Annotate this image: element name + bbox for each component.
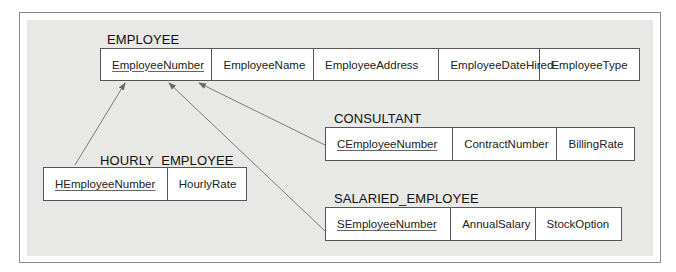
primary-key-attribute: CEmployeeNumber [337, 138, 437, 150]
attribute-label: StockOption [547, 218, 610, 230]
primary-key-attribute: SEmployeeNumber [337, 218, 437, 230]
employee-relation-name: EMPLOYEE [107, 32, 179, 47]
employee-relation: EmployeeNumber EmployeeName EmployeeAddr… [100, 48, 640, 81]
attribute-cell: EmployeeName [212, 49, 314, 80]
attribute-cell: ContractNumber [453, 128, 557, 160]
attribute-cell: StockOption [536, 208, 621, 240]
hourly-employee-relation-name: HOURLY_EMPLOYEE [100, 153, 233, 168]
attribute-label: EmployeeDateHired [450, 59, 553, 71]
attribute-label: EmployeeType [551, 59, 627, 71]
attribute-label: EmployeeAddress [325, 59, 418, 71]
attribute-label: HourlyRate [179, 178, 237, 190]
arrow-consultant-to-employee [199, 83, 325, 145]
attribute-label: ContractNumber [464, 138, 548, 150]
hourly-employee-relation: HEmployeeNumber HourlyRate [43, 167, 247, 201]
attribute-cell: EmployeeType [540, 49, 639, 80]
consultant-relation-name: CONSULTANT [334, 111, 421, 126]
consultant-relation: CEmployeeNumber ContractNumber BillingRa… [325, 127, 635, 161]
attribute-label: EmployeeName [223, 59, 305, 71]
attribute-cell: SEmployeeNumber [326, 208, 451, 240]
attribute-cell: HourlyRate [168, 168, 246, 200]
primary-key-attribute: HEmployeeNumber [55, 178, 155, 190]
primary-key-attribute: EmployeeNumber [112, 59, 204, 71]
attribute-cell: EmployeeNumber [101, 49, 212, 80]
attribute-cell: CEmployeeNumber [326, 128, 453, 160]
attribute-cell: HEmployeeNumber [44, 168, 168, 200]
salaried-employee-relation: SEmployeeNumber AnnualSalary StockOption [325, 207, 622, 241]
attribute-cell: EmployeeDateHired [439, 49, 540, 80]
attribute-label: BillingRate [568, 138, 623, 150]
attribute-label: AnnualSalary [462, 218, 530, 230]
attribute-cell: EmployeeAddress [314, 49, 439, 80]
attribute-cell: BillingRate [557, 128, 634, 160]
salaried-employee-relation-name: SALARIED_EMPLOYEE [334, 191, 479, 206]
attribute-cell: AnnualSalary [451, 208, 535, 240]
